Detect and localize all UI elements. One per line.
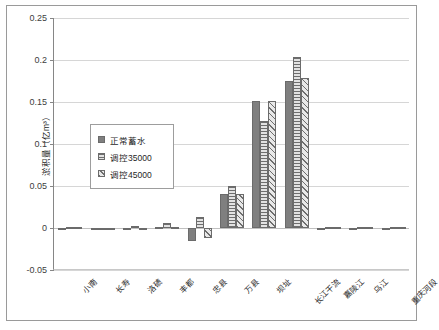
y-tick-mark [50, 102, 54, 103]
bar [196, 217, 204, 228]
legend-item: 调控45000 [98, 165, 167, 182]
y-tick-label: 0.2 [34, 55, 47, 65]
bar [123, 228, 131, 230]
gridline [54, 270, 409, 271]
y-tick-label: 0.15 [29, 97, 47, 107]
bar [260, 121, 268, 228]
bar [382, 228, 390, 230]
x-tick-label: 乌江 [371, 276, 390, 295]
y-tick-mark [50, 186, 54, 187]
bar [349, 228, 357, 230]
bar [357, 227, 365, 229]
legend-item: 正常蓄水 [98, 131, 167, 148]
bar [91, 228, 99, 230]
bar [163, 223, 171, 228]
x-tick-label: 万县 [242, 276, 261, 295]
bar [155, 227, 163, 229]
legend-swatch-icon [98, 153, 105, 160]
bar [139, 228, 147, 230]
bar [58, 228, 66, 230]
x-tick-label: 嘉陵江 [341, 276, 366, 301]
bar [365, 227, 373, 229]
bar [317, 228, 325, 230]
bar [107, 228, 115, 230]
legend-swatch-icon [98, 136, 105, 143]
x-tick-label: 丰都 [177, 276, 196, 295]
bar [236, 194, 244, 228]
legend-item: 调控35000 [98, 148, 167, 165]
y-tick-mark [50, 144, 54, 145]
y-tick-label: 0 [42, 223, 47, 233]
x-tick-label: 坝址 [274, 276, 293, 295]
y-tick-mark [50, 18, 54, 19]
bar [204, 228, 212, 238]
gridline [54, 102, 409, 103]
x-tick-label: 洛碛 [145, 276, 164, 295]
bar [99, 228, 107, 230]
legend-item-label: 调控45000 [110, 168, 152, 180]
x-tick-label: 小南 [80, 276, 99, 295]
bar [74, 227, 82, 229]
bar [301, 78, 309, 228]
y-tick-mark [50, 228, 54, 229]
bar [188, 228, 196, 241]
bar [390, 227, 398, 229]
bar [171, 227, 179, 229]
bar [66, 227, 74, 229]
y-tick-mark [50, 270, 54, 271]
y-tick-label: 0.25 [29, 13, 47, 23]
x-tick-label: 忠县 [209, 276, 228, 295]
x-tick-label: 长江干流 [311, 276, 341, 306]
chart-frame: 淤积量（亿m³） 0.250.20.150.10.050-0.05 小南长寿洛碛… [6, 5, 417, 321]
bar [398, 227, 406, 229]
y-tick-label: 0.05 [29, 181, 47, 191]
legend-swatch-icon [98, 170, 105, 177]
chart-legend: 正常蓄水 调控35000 调控45000 [90, 124, 174, 189]
y-tick-mark [50, 60, 54, 61]
bar [220, 194, 228, 228]
bar [285, 81, 293, 228]
bar [293, 57, 301, 228]
legend-item-label: 调控35000 [110, 151, 152, 163]
bar [228, 186, 236, 228]
bar [131, 226, 139, 228]
x-tick-label: 重庆河段 [408, 276, 438, 306]
y-tick-label: 0.1 [34, 139, 47, 149]
gridline [54, 60, 409, 61]
bar [325, 227, 333, 229]
bar [268, 101, 276, 228]
x-tick-label: 长寿 [112, 276, 131, 295]
bar [333, 227, 341, 229]
gridline [54, 18, 409, 19]
y-tick-label: -0.05 [26, 265, 47, 275]
legend-item-label: 正常蓄水 [110, 134, 146, 146]
bar [252, 101, 260, 228]
